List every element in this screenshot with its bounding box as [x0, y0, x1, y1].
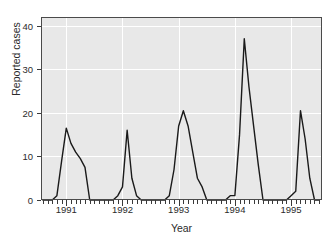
y-axis-title-wrap: Reported cases: [0, 0, 14, 244]
x-tick-mark: [272, 200, 273, 204]
x-axis-title: Year: [41, 222, 322, 234]
x-tick-mark: [277, 200, 278, 204]
x-tick-mark: [141, 200, 142, 204]
x-tick-label-1992: 1992: [112, 204, 133, 215]
x-tick-mark: [211, 200, 212, 204]
x-tick-mark: [165, 200, 166, 204]
x-tick-mark: [94, 200, 95, 204]
x-tick-mark: [249, 200, 250, 204]
x-tick-mark: [137, 200, 138, 204]
x-tick-mark: [108, 200, 109, 204]
y-axis-title: Reported cases: [10, 0, 22, 119]
x-tick-mark: [155, 200, 156, 204]
x-tick-mark: [48, 200, 49, 204]
x-tick-mark: [43, 200, 44, 204]
x-tick-mark: [314, 200, 315, 204]
x-tick-mark: [90, 200, 91, 204]
y-tick-label-20: 20: [22, 107, 33, 118]
x-tick-mark: [99, 200, 100, 204]
x-tick-mark: [104, 200, 105, 204]
y-tick-label-0: 0: [28, 195, 33, 206]
y-tick-mark-30: [37, 69, 41, 70]
x-tick-mark: [254, 200, 255, 204]
x-tick-mark: [146, 200, 147, 204]
y-tick-mark-40: [37, 26, 41, 27]
x-tick-mark: [151, 200, 152, 204]
series-polyline: [43, 39, 319, 200]
y-tick-mark-0: [37, 200, 41, 201]
x-tick-mark: [305, 200, 306, 204]
y-tick-mark-10: [37, 156, 41, 157]
x-tick-mark: [160, 200, 161, 204]
x-tick-label-1991: 1991: [56, 204, 77, 215]
x-tick-mark: [207, 200, 208, 204]
chart-figure: 010203040 19911992199319941995 Reported …: [0, 0, 331, 244]
x-tick-mark: [319, 200, 320, 204]
x-tick-label-1993: 1993: [168, 204, 189, 215]
y-tick-mark-20: [37, 113, 41, 114]
x-tick-mark: [258, 200, 259, 204]
x-tick-mark: [202, 200, 203, 204]
x-tick-mark: [193, 200, 194, 204]
y-tick-label-30: 30: [22, 64, 33, 75]
x-tick-mark: [80, 200, 81, 204]
reported-cases-line-series: [41, 17, 322, 200]
x-tick-mark: [197, 200, 198, 204]
x-tick-mark: [221, 200, 222, 204]
x-tick-mark: [216, 200, 217, 204]
x-tick-mark: [263, 200, 264, 204]
x-tick-label-1995: 1995: [281, 204, 302, 215]
x-tick-mark: [85, 200, 86, 204]
y-tick-label-10: 10: [22, 151, 33, 162]
y-tick-label-40: 40: [22, 20, 33, 31]
x-tick-mark: [310, 200, 311, 204]
x-tick-label-1994: 1994: [224, 204, 245, 215]
x-tick-mark: [268, 200, 269, 204]
x-tick-mark: [52, 200, 53, 204]
